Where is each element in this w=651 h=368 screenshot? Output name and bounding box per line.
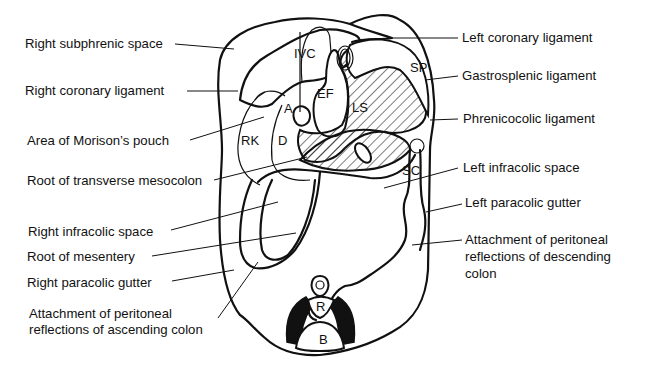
leader-root-mesentery (152, 233, 296, 256)
leader-left-paracolic (426, 204, 462, 212)
organ-label-r: R (316, 299, 325, 314)
label-attachment-descending-line3: colon (465, 266, 497, 281)
label-attachment-ascending-line2: reflections of ascending colon (29, 322, 203, 337)
organ-label-a: A (284, 101, 293, 116)
left-paracolic-inner (420, 150, 425, 250)
label-attachment-ascending-line1: Attachment of peritoneal (29, 306, 172, 321)
label-right-subphrenic-space: Right subphrenic space (25, 36, 163, 51)
label-left-coronary-ligament: Left coronary ligament (462, 30, 593, 45)
label-right-paracolic-gutter: Right paracolic gutter (27, 275, 152, 290)
label-attachment-descending-line1: Attachment of peritoneal (465, 232, 608, 247)
left-labels: Right subphrenic space Right coronary li… (25, 36, 203, 337)
label-right-infracolic-space: Right infracolic space (28, 224, 153, 239)
label-right-coronary-ligament: Right coronary ligament (25, 83, 165, 98)
organ-label-b: B (319, 332, 328, 347)
organ-label-sc: SC (402, 163, 420, 178)
label-left-paracolic-gutter: Left paracolic gutter (465, 195, 581, 210)
label-root-of-transverse-mesocolon: Root of transverse mesocolon (27, 173, 202, 188)
leader-attachment-descending (412, 240, 462, 245)
label-gastrosplenic-ligament: Gastrosplenic ligament (462, 68, 596, 83)
a-ring (293, 106, 310, 125)
label-area-of-morisons-pouch: Area of Morison’s pouch (27, 133, 169, 148)
organ-label-sp: SP (410, 60, 427, 75)
label-root-of-mesentery: Root of mesentery (27, 249, 135, 264)
label-left-infracolic-space: Left infracolic space (463, 160, 580, 175)
organ-label-ef: EF (317, 86, 334, 101)
organ-label-d: D (278, 133, 287, 148)
label-phrenicocolic-ligament: Phrenicocolic ligament (463, 111, 595, 126)
rectum-ring (312, 276, 329, 296)
label-attachment-descending-line2: reflections of descending (465, 249, 611, 264)
organ-label-ivc: IVC (294, 46, 316, 61)
organ-label-ls: LS (352, 100, 368, 115)
organ-label-rk: RK (241, 133, 259, 148)
right-infracolic-loop (260, 180, 315, 260)
sc-circle (410, 139, 424, 153)
peritoneal-spaces-diagram: IVC EF A LS SP RK D SC R B Right subphre… (0, 0, 651, 368)
right-labels: Left coronary ligament Gastrosplenic lig… (462, 30, 611, 281)
